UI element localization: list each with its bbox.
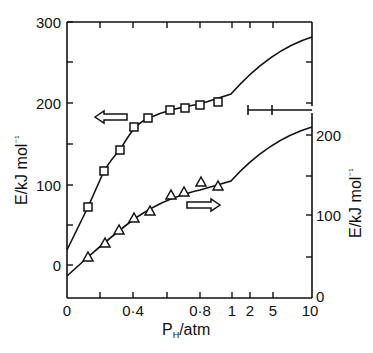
svg-text:100: 100 bbox=[316, 207, 341, 224]
svg-text:100: 100 bbox=[36, 177, 61, 194]
x-axis-title: PH/atm bbox=[162, 321, 210, 340]
svg-text:300: 300 bbox=[36, 14, 61, 31]
svg-text:2: 2 bbox=[246, 302, 254, 319]
svg-text:10: 10 bbox=[302, 302, 319, 319]
left-axis-ticks bbox=[67, 22, 73, 265]
svg-text:1: 1 bbox=[228, 302, 236, 319]
svg-text:0·8: 0·8 bbox=[189, 302, 211, 319]
svg-text:0·4: 0·4 bbox=[122, 302, 144, 319]
left-axis-arrow-icon bbox=[95, 111, 127, 123]
svg-text:5: 5 bbox=[269, 302, 277, 319]
right-axis-labels: 200 100 0 bbox=[316, 127, 341, 305]
x-axis-labels: 0 0·4 0·8 1 2 5 10 bbox=[63, 302, 319, 319]
right-axis-ticks bbox=[306, 62, 312, 257]
chart: 300 200 100 0 200 100 0 0 0·4 0·8 1 2 5 … bbox=[0, 0, 373, 353]
right-y-axis-title: E/kJ mol⁻¹ bbox=[346, 168, 364, 238]
left-y-axis-title: E/kJ mol⁻¹ bbox=[12, 135, 30, 205]
svg-text:200: 200 bbox=[316, 127, 341, 144]
left-axis-labels: 300 200 100 0 bbox=[36, 14, 61, 274]
svg-text:200: 200 bbox=[36, 95, 61, 112]
svg-text:0: 0 bbox=[53, 257, 61, 274]
svg-text:0: 0 bbox=[63, 302, 71, 319]
plot-frame bbox=[67, 22, 312, 298]
right-axis-arrow-icon bbox=[187, 199, 220, 211]
x-axis-ticks bbox=[100, 22, 273, 298]
